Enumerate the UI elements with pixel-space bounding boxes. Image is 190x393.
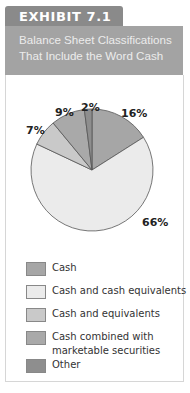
chart-title-line1: Balance Sheet Classifications [19,33,172,46]
title-box: Balance Sheet Classifications That Inclu… [5,26,183,75]
legend-swatch [26,285,46,299]
label-cash: 16% [121,107,147,120]
label-cash-and-cash-equivalents: 66% [142,216,168,229]
legend-label: Cash [52,261,77,274]
legend-label: Cash and cash equivalents [52,284,186,297]
legend-swatch [26,308,46,322]
legend-label: Cash combined with [52,330,154,343]
label-other: 2% [81,101,100,114]
chart-title-line2: That Include the Word Cash [19,49,163,62]
exhibit-label: EXHIBIT 7.1 [19,9,111,24]
label-cash-combined: 9% [55,106,74,119]
label-cash-and-equivalents: 7% [26,124,45,137]
legend-label: Other [52,358,80,371]
legend-swatch [26,331,46,345]
legend-label-line2: marketable securities [52,344,160,357]
legend-swatch [26,262,46,276]
legend-swatch [26,359,46,373]
exhibit-tab: EXHIBIT 7.1 [5,6,123,26]
legend-label: Cash and equivalents [52,307,160,320]
